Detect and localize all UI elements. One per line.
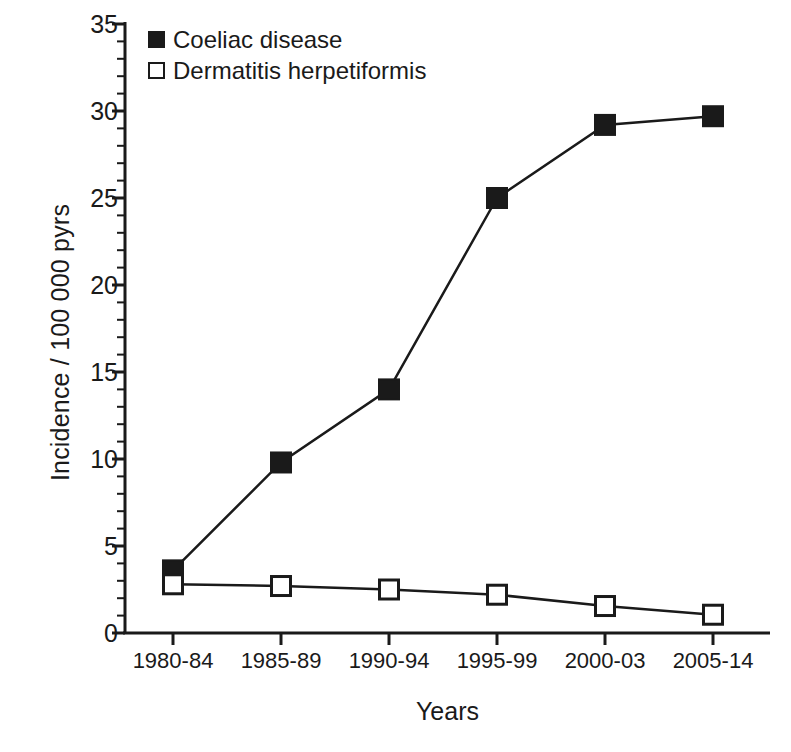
chart-figure: Incidence / 100 000 pyrs Years 35 30 25 … [0,0,791,752]
plot-area [0,0,791,752]
data-series-layer [163,106,723,624]
axis-lines [112,22,770,645]
